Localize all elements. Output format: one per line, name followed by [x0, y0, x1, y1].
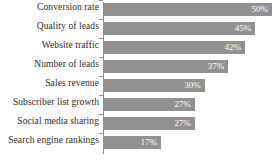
bar-container: 30%	[104, 79, 205, 92]
axis-tick	[99, 0, 103, 1]
bar-value-label: 50%	[252, 3, 269, 16]
bar-row: Quality of leads45%	[0, 22, 275, 35]
bar-value-label: 17%	[141, 136, 158, 149]
bar-rows: Conversion rate50%Quality of leads45%Web…	[0, 0, 275, 160]
bar: 37%	[104, 60, 228, 73]
category-label: Conversion rate	[0, 1, 99, 14]
bar-container: 27%	[104, 98, 195, 111]
bar: 27%	[104, 117, 195, 130]
bar-container: 42%	[104, 41, 245, 54]
bar-container: 37%	[104, 60, 228, 73]
axis-tick	[99, 76, 103, 77]
bar: 17%	[104, 136, 161, 149]
bar-container: 27%	[104, 117, 195, 130]
axis-tick	[99, 114, 103, 115]
category-label: Quality of leads	[0, 20, 99, 33]
bar-row: Social media sharing27%	[0, 117, 275, 130]
axis-tick	[99, 19, 103, 20]
bar-row: Sales revenue30%	[0, 79, 275, 92]
bar-row: Number of leads37%	[0, 60, 275, 73]
bar-container: 45%	[104, 22, 255, 35]
bar-container: 17%	[104, 136, 161, 149]
bar-row: Conversion rate50%	[0, 3, 275, 16]
bar-container: 50%	[104, 3, 272, 16]
bar-row: Subscriber list growth27%	[0, 98, 275, 111]
category-label: Subscriber list growth	[0, 96, 99, 109]
axis-tick	[99, 133, 103, 134]
bar: 27%	[104, 98, 195, 111]
bar-row: Website traffic42%	[0, 41, 275, 54]
bar-row: Search engine rankings17%	[0, 136, 275, 149]
bar: 50%	[104, 3, 272, 16]
category-label: Sales revenue	[0, 77, 99, 90]
bar-value-label: 42%	[225, 41, 242, 54]
axis-tick	[99, 38, 103, 39]
bar-value-label: 27%	[174, 117, 191, 130]
bar-value-label: 37%	[208, 60, 225, 73]
horizontal-bar-chart: Conversion rate50%Quality of leads45%Web…	[0, 0, 275, 160]
category-label: Search engine rankings	[0, 134, 99, 147]
axis-tick	[99, 95, 103, 96]
bar: 45%	[104, 22, 255, 35]
bar-value-label: 30%	[184, 79, 201, 92]
axis-tick	[99, 57, 103, 58]
category-label: Social media sharing	[0, 115, 99, 128]
bar: 30%	[104, 79, 205, 92]
bar: 42%	[104, 41, 245, 54]
bar-value-label: 27%	[174, 98, 191, 111]
category-label: Website traffic	[0, 39, 99, 52]
bar-value-label: 45%	[235, 22, 252, 35]
category-label: Number of leads	[0, 58, 99, 71]
